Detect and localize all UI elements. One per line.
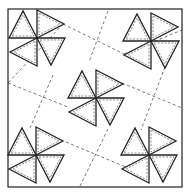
pinwheel-bottom-left — [8, 127, 64, 183]
dashed-line — [66, 142, 128, 168]
pinwheel-bottom-right — [121, 127, 177, 183]
dashed-line — [89, 11, 108, 62]
pinwheel-top-right — [123, 13, 179, 69]
pinwheel-top-left — [9, 10, 65, 66]
dashed-line — [141, 67, 165, 130]
dashed-line — [122, 83, 182, 108]
quilt-block-diagram — [0, 0, 189, 195]
dashed-line — [8, 83, 68, 107]
pinwheels — [8, 10, 179, 183]
pinwheel-center — [68, 70, 124, 126]
dashed-line — [30, 75, 53, 128]
